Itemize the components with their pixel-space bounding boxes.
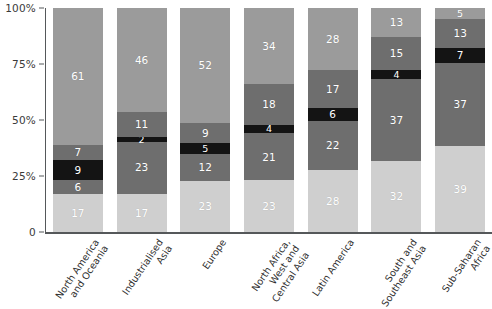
- bar-segment-value: 5: [202, 144, 208, 154]
- bar-segment-value: 6: [75, 182, 82, 193]
- bar-segment: 18: [244, 84, 294, 124]
- bar-segment-value: 37: [453, 99, 466, 110]
- x-axis-label-6: South andSoutheast Asia: [370, 237, 429, 309]
- bar-segment-value: 4: [393, 70, 399, 80]
- y-tick-label-100: 100%: [5, 2, 36, 14]
- bar-segment-value: 11: [135, 119, 148, 130]
- bar-segment-value: 34: [262, 41, 275, 52]
- bar-segment-value: 17: [135, 208, 148, 219]
- bar-segment: 12: [180, 154, 230, 181]
- bar-segment: 39: [435, 146, 485, 232]
- bar-segment-value: 13: [453, 28, 466, 39]
- bar-1[interactable]: 1769761: [53, 8, 103, 232]
- bar-segment: 6: [53, 180, 103, 193]
- bar-segment: 6: [308, 108, 358, 121]
- bar-segment-value: 39: [453, 184, 466, 195]
- bar-segment-value: 32: [390, 191, 403, 202]
- bar-segment: 17: [117, 194, 167, 232]
- bar-segment-value: 7: [75, 147, 82, 158]
- bar-segment-value: 4: [266, 124, 272, 134]
- bar-6[interactable]: 323741513: [371, 8, 421, 232]
- bar-segment-value: 21: [262, 152, 275, 163]
- bar-segment: 11: [117, 112, 167, 137]
- bar-segment: 5: [180, 143, 230, 154]
- x-axis-label-7: Sub-SaharanAfrica: [440, 237, 492, 301]
- bar-segment: 23: [117, 142, 167, 194]
- bar-segment-value: 12: [199, 162, 212, 173]
- bar-segment: 22: [308, 121, 358, 170]
- bar-segment-value: 22: [326, 140, 339, 151]
- bar-segment: 4: [244, 125, 294, 134]
- bar-segment-value: 23: [135, 162, 148, 173]
- y-axis: 100% 75% 50% 25% 0: [0, 0, 46, 236]
- bar-segment-value: 18: [262, 99, 275, 110]
- bar-segment: 34: [244, 8, 294, 84]
- y-tick-label-50: 50%: [12, 114, 36, 126]
- bar-segment-value: 15: [390, 48, 403, 59]
- bar-4[interactable]: 232141834: [244, 8, 294, 232]
- x-axis-label-3: Europe: [200, 237, 228, 271]
- bar-segment: 5: [435, 8, 485, 19]
- bar-segment-value: 37: [390, 115, 403, 126]
- y-tick-mark-100: [39, 8, 44, 9]
- bar-segment: 52: [180, 8, 230, 123]
- bar-7[interactable]: 39377135: [435, 8, 485, 232]
- bar-segment: 13: [371, 8, 421, 37]
- bar-segment-value: 28: [326, 196, 339, 207]
- bar-segment: 37: [371, 79, 421, 161]
- bar-segment-value: 23: [262, 201, 275, 212]
- x-axis-label-4: North Africa,West andCentral Asia: [249, 237, 311, 306]
- bar-segment: 23: [244, 180, 294, 232]
- y-tick-label-75: 75%: [12, 58, 36, 70]
- bar-segment-value: 23: [199, 201, 212, 212]
- bar-segment: 7: [435, 48, 485, 64]
- bar-segment: 4: [371, 70, 421, 79]
- bar-segment-value: 17: [71, 208, 84, 219]
- bar-segment: 28: [308, 170, 358, 232]
- bar-5[interactable]: 282261728: [308, 8, 358, 232]
- bar-segment-value: 7: [457, 50, 464, 61]
- bar-segment: 13: [435, 19, 485, 48]
- bar-segment-value: 61: [71, 71, 84, 82]
- bar-segment-value: 17: [326, 84, 339, 95]
- bar-segment: 9: [53, 160, 103, 180]
- bar-segment: 9: [180, 123, 230, 143]
- bar-segment: 17: [53, 194, 103, 232]
- bar-segment-value: 28: [326, 34, 339, 45]
- bar-segment: 2: [117, 137, 167, 142]
- bar-segment: 17: [308, 70, 358, 108]
- plot-area: 1769761172321146231259522321418342822617…: [46, 8, 492, 232]
- x-axis-label-1: North Americaand Oceania: [53, 237, 111, 307]
- bar-segment-value: 5: [457, 9, 463, 19]
- y-tick-mark-50: [39, 120, 44, 121]
- y-tick-label-25: 25%: [12, 170, 36, 182]
- y-tick-mark-25: [39, 176, 44, 177]
- bar-3[interactable]: 23125952: [180, 8, 230, 232]
- bar-segment-value: 9: [202, 128, 209, 139]
- bar-segment: 61: [53, 8, 103, 145]
- bar-segment: 7: [53, 145, 103, 161]
- bar-segment: 15: [371, 37, 421, 70]
- bar-segment: 23: [180, 181, 230, 232]
- y-tick-mark-75: [39, 64, 44, 65]
- bar-segment-value: 9: [75, 165, 82, 176]
- bar-segment-value: 13: [390, 17, 403, 28]
- bar-segment-value: 6: [329, 109, 336, 120]
- bar-segment: 32: [371, 161, 421, 232]
- x-axis-label-line: Latin America: [310, 237, 356, 298]
- bar-segment: 21: [244, 133, 294, 180]
- bar-2[interactable]: 172321146: [117, 8, 167, 232]
- bar-segment-value: 46: [135, 55, 148, 66]
- x-axis-labels: North Americaand OceaniaIndustrialisedAs…: [0, 233, 492, 304]
- x-axis-label-line: Europe: [200, 237, 228, 271]
- bar-segment: 46: [117, 8, 167, 112]
- bar-segment: 37: [435, 63, 485, 145]
- bar-segment-value: 52: [199, 60, 212, 71]
- bar-segment: 28: [308, 8, 358, 70]
- x-axis-label-5: Latin America: [310, 237, 356, 298]
- x-axis-label-2: IndustrialisedAsia: [119, 237, 174, 303]
